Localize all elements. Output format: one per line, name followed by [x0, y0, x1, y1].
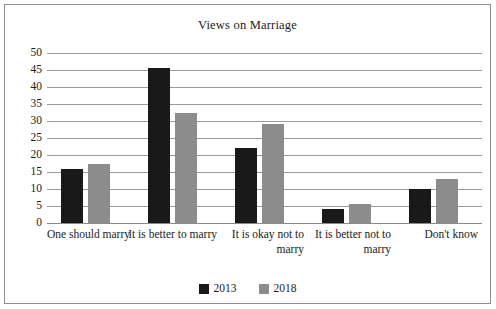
y-tick-label-25: 25	[31, 132, 43, 144]
y-tick-label-45: 45	[31, 64, 43, 76]
x-axis-label-5: Don't know	[389, 227, 480, 242]
bar-2013-5	[409, 189, 431, 223]
legend-label-2013: 2013	[214, 283, 237, 295]
bar-2018-4	[349, 204, 371, 223]
x-axis-category-labels: One should marryIt is better to marryIt …	[47, 227, 482, 273]
x-axis-label-3: It is okay not to marry	[215, 227, 306, 257]
legend-swatch-2013	[199, 284, 209, 294]
bar-2013-2	[148, 68, 170, 223]
bar-2013-3	[235, 148, 257, 223]
legend-label-2018: 2018	[274, 283, 297, 295]
legend-entry-2013: 2013	[199, 283, 237, 295]
bar-group	[47, 53, 134, 223]
bar-series-container	[47, 53, 482, 223]
bar-group	[221, 53, 308, 223]
y-tick-label-5: 5	[36, 200, 42, 212]
bar-2013-4	[322, 209, 344, 223]
y-tick-label-30: 30	[31, 115, 43, 127]
y-tick-label-20: 20	[31, 149, 43, 161]
x-axis-label-4: It is better not to marry	[302, 227, 393, 257]
y-tick-label-35: 35	[31, 98, 43, 110]
bar-2018-3	[262, 124, 284, 223]
x-axis-label-1: One should marry	[41, 227, 132, 242]
y-tick-label-15: 15	[31, 166, 43, 178]
bar-2018-2	[175, 113, 197, 224]
x-axis-label-2: It is better to marry	[128, 227, 219, 242]
chart-frame: Views on Marriage 05101520253035404550 O…	[4, 4, 491, 304]
bar-group	[308, 53, 395, 223]
bar-2018-5	[436, 179, 458, 223]
bar-2013-1	[61, 169, 83, 223]
legend-entry-2018: 2018	[259, 283, 297, 295]
y-tick-label-10: 10	[31, 183, 43, 195]
y-tick-label-50: 50	[31, 47, 43, 59]
gridline-0	[47, 223, 482, 224]
chart-legend: 20132018	[5, 283, 490, 295]
y-tick-label-40: 40	[31, 81, 43, 93]
bar-2018-1	[88, 164, 110, 224]
plot-area: 05101520253035404550	[47, 53, 482, 223]
bar-group	[134, 53, 221, 223]
legend-swatch-2018	[259, 284, 269, 294]
chart-title: Views on Marriage	[5, 18, 490, 33]
bar-group	[395, 53, 482, 223]
